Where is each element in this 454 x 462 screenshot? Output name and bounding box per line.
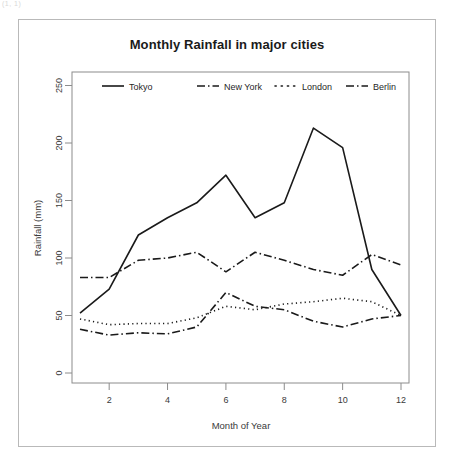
y-tick-label: 250 xyxy=(54,78,64,93)
series-line-tokyo xyxy=(80,128,401,315)
x-tick-label: 2 xyxy=(107,395,112,405)
x-axis: 24681012 xyxy=(107,383,406,405)
figure-frame: Monthly Rainfall in major cities 0501001… xyxy=(18,19,436,447)
legend-label-london: London xyxy=(302,82,332,92)
x-tick-label: 10 xyxy=(338,395,348,405)
corner-artifact-text: (1, 1) xyxy=(2,0,21,8)
y-tick-label: 0 xyxy=(54,370,64,375)
legend-label-berlin: Berlin xyxy=(373,82,396,92)
y-tick-label: 200 xyxy=(54,135,64,150)
series-line-london xyxy=(80,298,401,324)
chart-plot: 050100150200250 24681012 Rainfall (mm) M… xyxy=(19,20,437,448)
series-line-new-york xyxy=(80,252,401,277)
y-axis-label: Rainfall (mm) xyxy=(32,200,43,256)
x-axis-label: Month of Year xyxy=(212,420,271,431)
series-group xyxy=(80,128,401,335)
y-tick-label: 50 xyxy=(54,310,64,320)
legend-label-tokyo: Tokyo xyxy=(129,82,153,92)
legend-label-new-york: New York xyxy=(224,82,263,92)
y-tick-label: 150 xyxy=(54,193,64,208)
x-tick-label: 4 xyxy=(165,395,170,405)
y-tick-label: 100 xyxy=(54,250,64,265)
x-tick-label: 8 xyxy=(282,395,287,405)
plot-frame-box xyxy=(72,72,409,383)
y-axis: 050100150200250 xyxy=(54,78,72,376)
chart-legend: TokyoNew YorkLondonBerlin xyxy=(102,82,396,92)
x-tick-label: 6 xyxy=(223,395,228,405)
x-tick-label: 12 xyxy=(396,395,406,405)
